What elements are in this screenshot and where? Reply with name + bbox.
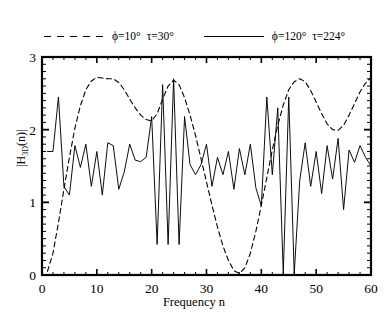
x-tick-label: 60 xyxy=(364,281,378,296)
x-tick-label: 0 xyxy=(39,281,46,296)
x-tick-label: 10 xyxy=(90,281,104,296)
y-tick-label: 1 xyxy=(29,195,36,210)
y-axis-label: |H3D(n)| xyxy=(14,108,30,188)
legend-label-phi-2: ϕ=120° xyxy=(272,30,306,42)
legend-entry-dashed: ϕ=10° τ=30° xyxy=(44,30,174,42)
x-tick-label: 30 xyxy=(200,281,214,296)
dashed-line-swatch-icon xyxy=(44,36,104,37)
plot-frame xyxy=(42,57,371,275)
chart-canvas: 01020304050600123 xyxy=(0,0,388,320)
legend-label-phi-1: ϕ=10° xyxy=(112,30,141,42)
y-tick-label: 0 xyxy=(29,268,36,283)
legend-label-tau-2: τ=224° xyxy=(312,30,345,42)
x-axis-label: Frequency n xyxy=(0,295,388,310)
x-tick-label: 20 xyxy=(145,281,159,296)
figure-container: 01020304050600123 |H3D(n)| Frequency n ϕ… xyxy=(0,0,388,320)
y-tick-label: 2 xyxy=(29,123,36,138)
chart-legend: ϕ=10° τ=30° ϕ=120° τ=224° xyxy=(44,26,370,46)
y-tick-label: 3 xyxy=(29,50,36,65)
x-tick-label: 40 xyxy=(255,281,269,296)
x-tick-label: 50 xyxy=(309,281,323,296)
solid-line-swatch-icon xyxy=(204,36,264,37)
legend-entry-solid: ϕ=120° τ=224° xyxy=(204,30,345,42)
legend-label-tau-1: τ=30° xyxy=(147,30,174,42)
